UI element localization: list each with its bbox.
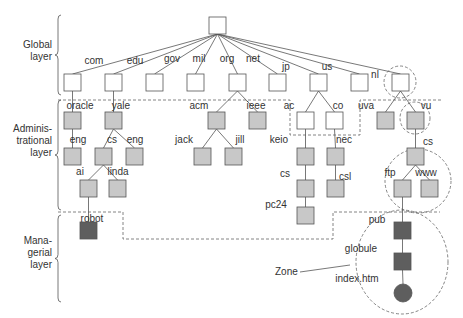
managerial-layer-brace xyxy=(55,215,61,302)
node-csl xyxy=(327,180,344,197)
layer-labels: GloballayerAdminis-trationallayerMana-ge… xyxy=(13,15,61,302)
node-label: pub xyxy=(369,214,386,225)
node-label: jack xyxy=(174,134,194,145)
node-oracle xyxy=(64,112,81,129)
admin-layer-label: trational xyxy=(16,135,52,146)
node-label: eng xyxy=(127,134,144,145)
node-nl xyxy=(392,74,409,91)
node-gov xyxy=(146,74,163,91)
node-label: nl xyxy=(371,69,379,80)
node-label: robot xyxy=(81,213,104,224)
node-pub xyxy=(394,222,411,239)
node-yale-eng xyxy=(126,148,143,165)
node-label: eng xyxy=(70,134,87,145)
node-label: globule xyxy=(345,243,378,254)
node-label: net xyxy=(246,53,260,64)
node-label: vu xyxy=(421,100,432,111)
node-keio-cs xyxy=(297,180,314,197)
node-label: mil xyxy=(193,53,206,64)
node-label: nec xyxy=(336,134,352,145)
node-jill xyxy=(225,148,242,165)
node-www xyxy=(421,180,438,197)
node-label: ftp xyxy=(384,167,396,178)
node-label: us xyxy=(322,61,333,72)
node-label: com xyxy=(85,55,104,66)
edge-acm-jill xyxy=(217,129,234,148)
zone-label: Zone xyxy=(275,266,298,277)
node-jack xyxy=(194,148,211,165)
node-label: linda xyxy=(107,166,129,177)
node-us xyxy=(351,74,368,91)
node-label: jill xyxy=(235,134,245,145)
global-layer-label: Global xyxy=(23,39,52,50)
node-label: org xyxy=(220,53,234,64)
global-layer-brace xyxy=(55,15,61,95)
node-net xyxy=(269,74,286,91)
node-yale xyxy=(105,112,122,129)
node-jp xyxy=(310,74,327,91)
node-ac xyxy=(297,112,314,129)
managerial-layer-label: Mana- xyxy=(24,235,52,246)
node-nec xyxy=(327,148,344,165)
node-label: ac xyxy=(284,100,295,111)
node-index-htm xyxy=(394,284,412,302)
node-label: index.htm xyxy=(335,273,378,284)
node-label: cs xyxy=(423,136,433,147)
node-label: keio xyxy=(270,134,289,145)
node-label: ai xyxy=(76,166,84,177)
node-pc24 xyxy=(297,207,314,224)
node-label: cs xyxy=(107,134,117,145)
edge-nl-uva xyxy=(386,91,401,112)
diagram-svg: comedugovmilorgnetjpusnloracleyaleacmiee… xyxy=(0,0,463,318)
node-vu-cs xyxy=(407,148,424,165)
edge-globule-index.htm xyxy=(403,270,404,284)
admin-layer-label: Adminis- xyxy=(13,123,52,134)
node-linda xyxy=(109,180,126,197)
node-vu xyxy=(407,112,424,129)
edge-vu_cs-ftp xyxy=(403,165,416,180)
node-label: acm xyxy=(190,100,209,111)
edge-jp-ac xyxy=(306,91,319,112)
node-label: ieee xyxy=(247,100,266,111)
node-label: csl xyxy=(339,171,351,182)
node-uva xyxy=(377,112,394,129)
node-ftp xyxy=(394,180,411,197)
edge-nl-vu xyxy=(401,91,416,112)
edge-root-nl xyxy=(218,34,401,74)
node-edu xyxy=(105,74,122,91)
node-robot xyxy=(80,222,97,239)
node-label: co xyxy=(333,100,344,111)
node-label: edu xyxy=(127,55,144,66)
node-co xyxy=(326,112,343,129)
node-ieee xyxy=(249,112,266,129)
admin-layer-brace xyxy=(55,100,61,210)
node-label: pc24 xyxy=(265,199,287,210)
dns-namespace-diagram: comedugovmilorgnetjpusnloracleyaleacmiee… xyxy=(0,0,463,318)
node-label: oracle xyxy=(66,100,94,111)
node-acm xyxy=(208,112,225,129)
edge-acm-jack xyxy=(203,129,217,148)
node-ai xyxy=(80,180,97,197)
node-label: yale xyxy=(112,100,131,111)
node-yale-cs xyxy=(95,148,112,165)
node-label: www xyxy=(414,167,437,178)
admin-layer-label: layer xyxy=(30,147,52,158)
node-label: jp xyxy=(281,61,290,72)
managerial-layer-label: layer xyxy=(30,259,52,270)
global-layer-label: layer xyxy=(30,51,52,62)
node-label: cs xyxy=(280,168,290,179)
node-keio xyxy=(297,148,314,165)
node-root xyxy=(209,17,226,34)
node-oracle-eng xyxy=(64,148,81,165)
node-com xyxy=(64,74,81,91)
node-org xyxy=(229,74,246,91)
node-mil xyxy=(187,74,204,91)
edge-yale_cs-ai xyxy=(89,165,104,180)
managerial-layer-label: gerial xyxy=(28,247,52,258)
node-globule xyxy=(394,253,411,270)
node-label: uva xyxy=(358,100,375,111)
zone-pointer-line xyxy=(300,265,350,272)
node-label: gov xyxy=(164,53,180,64)
edge-org-acm xyxy=(217,91,238,112)
